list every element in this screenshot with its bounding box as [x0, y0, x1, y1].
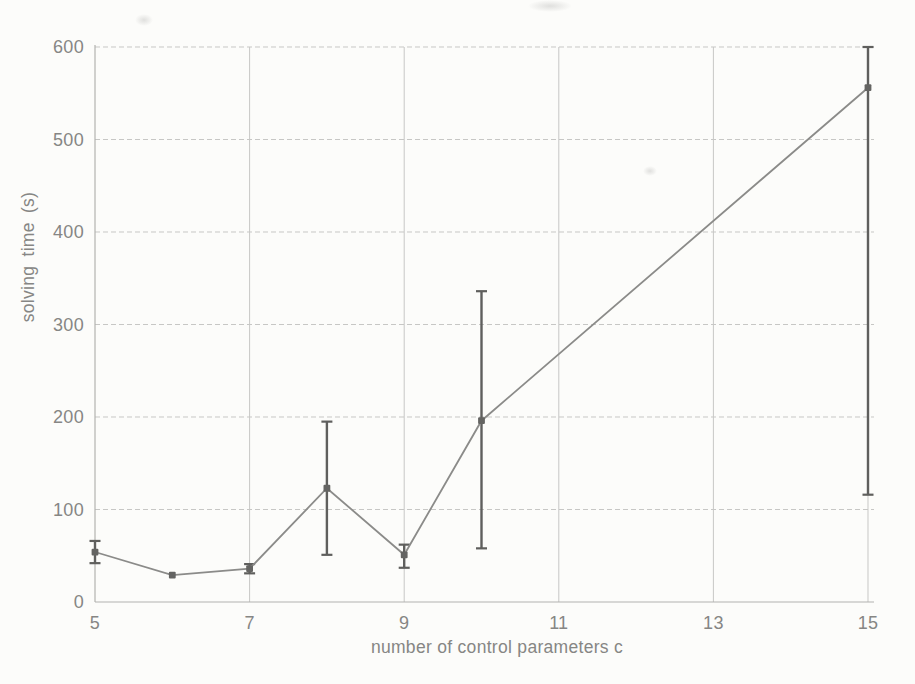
y-tick-label: 100 — [53, 500, 84, 520]
figure: 0100200300400500600579111315 number of c… — [0, 0, 915, 684]
data-point-marker — [401, 551, 408, 558]
y-tick-label: 300 — [53, 315, 84, 335]
scan-artifact — [528, 0, 572, 12]
x-tick-label: 13 — [703, 613, 724, 633]
data-point-marker — [324, 485, 331, 492]
x-tick-label: 7 — [244, 613, 254, 633]
scan-artifact — [643, 166, 657, 176]
chart-canvas: 0100200300400500600579111315 — [0, 0, 915, 684]
x-tick-label: 15 — [858, 613, 879, 633]
data-point-marker — [865, 84, 872, 91]
data-point-marker — [92, 549, 99, 556]
data-point-marker — [246, 565, 253, 572]
y-tick-label: 400 — [53, 222, 84, 242]
scan-artifact — [135, 14, 153, 26]
data-point-marker — [169, 572, 176, 579]
y-tick-label: 600 — [53, 37, 84, 57]
x-axis-title: number of control parameters c — [371, 637, 623, 658]
y-tick-label: 0 — [74, 592, 84, 612]
y-tick-label: 200 — [53, 407, 84, 427]
y-tick-label: 500 — [53, 130, 84, 150]
x-tick-label: 5 — [90, 613, 100, 633]
data-point-marker — [478, 417, 485, 424]
x-tick-label: 11 — [549, 613, 568, 633]
x-tick-label: 9 — [399, 613, 409, 633]
y-axis-title: solving time (s) — [18, 192, 39, 322]
